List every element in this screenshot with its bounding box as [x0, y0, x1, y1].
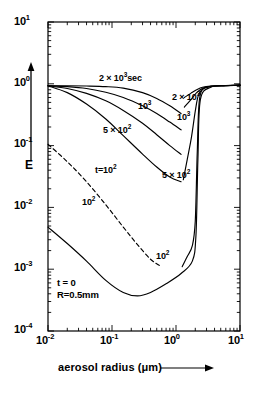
- x-tick-label: 101: [228, 334, 244, 346]
- figure-container: 101 100 10-1 10-2 10-3 10-4 10-2 10-1 10…: [0, 0, 265, 395]
- y-tick-label: 10-1: [14, 137, 32, 149]
- x-tick-label: 10-2: [36, 334, 54, 346]
- curve-label-1e2-dashed: 102: [82, 197, 95, 207]
- curve-label-t1e2-left: t=102: [95, 165, 116, 175]
- curve-label-5e2-left: 5 × 102: [103, 125, 131, 135]
- y-tick-label: 10-2: [14, 199, 32, 211]
- y-tick-label: 101: [14, 15, 30, 27]
- y-tick-label: 10-3: [14, 261, 32, 273]
- curve-label-2e3-right: 2 × 103: [172, 92, 200, 102]
- annotation-radius: R=0.5mm: [57, 289, 99, 300]
- y-tick-label: 100: [14, 76, 30, 88]
- x-axis-title: aerosol radius (μm): [58, 361, 162, 373]
- data-curves: [48, 85, 240, 296]
- curve-label-2e3sec: 2 × 103sec: [99, 73, 142, 83]
- curve-label-1e2-right: 102: [156, 251, 169, 261]
- axes-frame: [48, 22, 240, 331]
- x-tick-label: 100: [164, 334, 180, 346]
- curve-5: [48, 85, 240, 296]
- curve-9: [182, 85, 240, 266]
- x-axis-arrow: [160, 365, 214, 372]
- curve-label-1e3-left: 103: [138, 101, 151, 111]
- curve-4: [48, 144, 159, 265]
- x-tick-label: 10-1: [100, 334, 118, 346]
- curve-2: [48, 86, 181, 155]
- y-axis-title: E: [25, 158, 33, 172]
- y-tick-label: 10-4: [14, 323, 32, 335]
- curve-label-5e2-right: 5 × 102: [162, 170, 190, 180]
- curve-0: [48, 86, 181, 114]
- annotation-t0: t = 0: [57, 277, 76, 288]
- y-axis-ticks: [48, 22, 240, 331]
- curve-label-1e3-right: 103: [177, 112, 190, 122]
- x-axis-ticks: [48, 22, 240, 331]
